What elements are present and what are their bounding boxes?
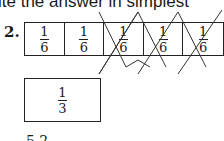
fraction: 1 6 [159,25,168,54]
numerator: 1 [58,86,66,99]
numerator: 1 [199,25,207,38]
denominator: 6 [159,41,167,54]
numerator: 1 [80,25,88,38]
fraction: 1 3 [58,86,67,115]
fraction-cell-crossed: 1 6 [183,23,223,55]
partial-equation-text: 5 2 [26,133,48,141]
fraction-cell-crossed: 1 6 [104,23,144,55]
problem-number: 2. [4,23,20,41]
fraction: 1 6 [40,25,49,54]
denominator: 6 [119,41,127,54]
denominator: 6 [199,41,207,54]
numerator: 1 [119,25,127,38]
denominator: 3 [58,102,66,115]
fraction-cell: 1 6 [65,23,105,55]
denominator: 6 [80,41,88,54]
fraction: 1 6 [199,25,208,54]
fraction-cell: 1 6 [25,23,65,55]
numerator: 1 [40,25,48,38]
answer-fraction-box: 1 3 [24,78,101,122]
fraction: 1 6 [119,25,128,54]
fraction-strip: 1 6 1 6 1 6 1 6 1 6 [24,22,224,56]
fraction-cell-crossed: 1 6 [144,23,184,55]
denominator: 6 [40,41,48,54]
numerator: 1 [159,25,167,38]
instruction-text: ite the answer in simplest [0,0,189,12]
fraction: 1 6 [79,25,88,54]
